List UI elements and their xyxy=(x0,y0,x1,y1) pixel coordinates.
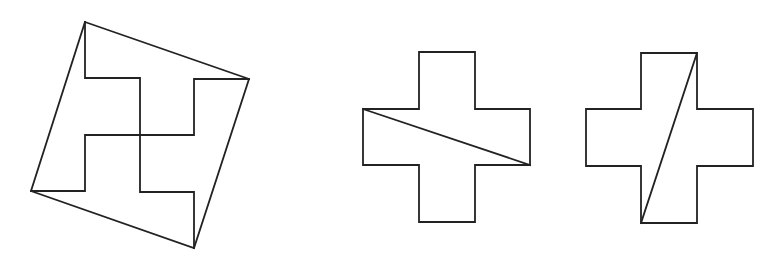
cross-vertical-cut-cut-line-0 xyxy=(641,53,697,223)
tilted-square-pinwheel xyxy=(31,22,249,248)
cross-horizontal-cut xyxy=(363,52,530,222)
figures-layer xyxy=(31,22,753,248)
cross-horizontal-cut-cut-line-0 xyxy=(363,109,530,165)
diagram-canvas xyxy=(0,0,782,260)
cross-vertical-cut xyxy=(586,53,753,223)
